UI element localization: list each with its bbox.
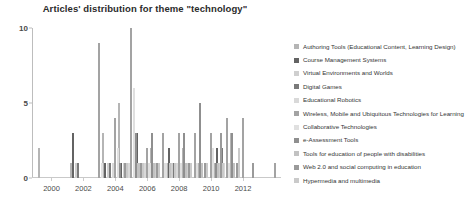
- legend-item[interactable]: e-Assessment Tools: [294, 134, 476, 147]
- y-axis-tick-label: 0: [24, 174, 28, 183]
- legend-item-label: Virtual Environments and Worlds: [303, 70, 393, 76]
- bar: [238, 148, 240, 178]
- legend-item-label: e-Assessment Tools: [303, 137, 358, 143]
- x-axis-tick-label: 2000: [43, 184, 60, 193]
- legend-item[interactable]: Tools for education of people with disab…: [294, 147, 476, 160]
- bar: [77, 163, 79, 178]
- x-axis-tick-label: 2004: [107, 184, 124, 193]
- x-axis-tick-mark: [147, 178, 148, 181]
- legend-swatch-icon: [294, 98, 299, 103]
- legend-swatch-icon: [294, 138, 299, 143]
- bars-layer: [32, 28, 281, 178]
- plot-area: 0510 2000200220042006200820102012: [32, 28, 281, 178]
- bar: [174, 163, 176, 178]
- bar: [206, 163, 208, 178]
- legend-item[interactable]: Collaborative Technologies: [294, 120, 476, 133]
- x-axis-tick-mark: [211, 178, 212, 181]
- legend-item-label: Authoring Tools (Educational Content, Le…: [303, 44, 456, 50]
- x-axis-tick-label: 2010: [203, 184, 220, 193]
- legend-item-label: Tools for education of people with disab…: [303, 151, 425, 157]
- bar: [169, 163, 171, 178]
- legend-item[interactable]: Virtual Environments and Worlds: [294, 67, 476, 80]
- legend-swatch-icon: [294, 178, 299, 183]
- bar: [119, 163, 121, 178]
- bar: [190, 163, 192, 178]
- legend-item-label: Wireless, Mobile and Ubiquitous Technolo…: [303, 111, 464, 117]
- x-axis-tick-mark: [83, 178, 84, 181]
- x-axis-tick-label: 2006: [139, 184, 156, 193]
- legend-swatch-icon: [294, 71, 299, 76]
- x-axis-tick-label: 2008: [171, 184, 188, 193]
- legend-swatch-icon: [294, 84, 299, 89]
- bar: [126, 163, 128, 178]
- legend-item-label: Educational Robotics: [303, 97, 361, 103]
- bar: [158, 163, 160, 178]
- legend-item-label: Collaborative Technologies: [303, 124, 377, 130]
- y-axis-tick-mark: [29, 103, 32, 104]
- legend-item[interactable]: Authoring Tools (Educational Content, Le…: [294, 40, 476, 53]
- legend-item[interactable]: Wireless, Mobile and Ubiquitous Technolo…: [294, 107, 476, 120]
- legend-swatch-icon: [294, 151, 299, 156]
- bar: [164, 163, 166, 178]
- legend-swatch-icon: [294, 58, 299, 63]
- x-axis-tick-label: 2002: [75, 184, 92, 193]
- legend-item-label: Hypermedia and multimedia: [303, 178, 380, 184]
- y-axis-tick-mark: [29, 178, 32, 179]
- legend-swatch-icon: [294, 44, 299, 49]
- bar: [274, 163, 276, 178]
- x-axis-tick-label: 2012: [235, 184, 252, 193]
- legend-item[interactable]: Hypermedia and multimedia: [294, 174, 476, 187]
- chart-container: Articles' distribution for theme "techno…: [0, 0, 476, 207]
- y-axis-tick-label: 10: [19, 24, 28, 33]
- chart-legend: Authoring Tools (Educational Content, Le…: [294, 40, 476, 187]
- bar: [101, 163, 103, 178]
- y-axis-tick-mark: [29, 28, 32, 29]
- y-axis-tick-label: 5: [24, 99, 28, 108]
- chart-title: Articles' distribution for theme "techno…: [0, 3, 290, 14]
- legend-item-label: Course Management Systems: [303, 57, 386, 63]
- x-axis-tick-mark: [115, 178, 116, 181]
- bar: [38, 148, 40, 178]
- legend-swatch-icon: [294, 125, 299, 130]
- x-axis-tick-mark: [51, 178, 52, 181]
- legend-swatch-icon: [294, 165, 299, 170]
- bar: [242, 118, 244, 178]
- bar: [222, 163, 224, 178]
- bar: [252, 163, 254, 178]
- legend-item[interactable]: Web 2.0 and social computing in educatio…: [294, 161, 476, 174]
- bar: [142, 163, 144, 178]
- legend-item[interactable]: Educational Robotics: [294, 94, 476, 107]
- legend-item-label: Web 2.0 and social computing in educatio…: [303, 164, 421, 170]
- legend-item-label: Digital Games: [303, 84, 342, 90]
- x-axis-tick-mark: [179, 178, 180, 181]
- legend-swatch-icon: [294, 111, 299, 116]
- x-axis-tick-mark: [243, 178, 244, 181]
- legend-item[interactable]: Digital Games: [294, 80, 476, 93]
- legend-item[interactable]: Course Management Systems: [294, 53, 476, 66]
- bar: [98, 43, 100, 178]
